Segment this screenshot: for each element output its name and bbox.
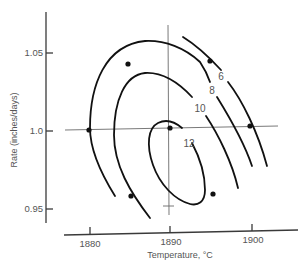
x-axis: 1880 1890 1900 Temperature, °C [64,224,298,260]
data-point [128,193,133,198]
x-tick-label: 1890 [160,236,181,247]
data-point [125,61,130,66]
data-point [247,123,252,128]
contour-label-12: 12 [183,138,195,149]
vertical-reference-line [168,25,169,215]
data-point [207,58,212,63]
y-tick-label: 0.95 [25,203,44,214]
contour-chart: 1.05 1.0 0.95 Rate (inches/days) 1880 18… [0,0,308,269]
reference-lines [65,25,278,215]
y-tick-label: 1.0 [30,125,43,136]
center-data-point [167,125,172,130]
x-axis-label: Temperature, °C [147,250,213,260]
contour-label-8: 8 [209,85,215,96]
y-axis-label: Rate (inches/days) [9,92,19,167]
data-point [210,191,215,196]
contour-label-10: 10 [194,103,206,114]
x-tick-label: 1880 [79,238,100,249]
y-tick-label: 1.05 [25,47,44,58]
contour-12 [149,121,205,204]
y-axis: 1.05 1.0 0.95 Rate (inches/days) [9,12,53,223]
x-tick-label: 1900 [242,234,263,245]
data-point [86,127,91,132]
contour-label-6: 6 [218,71,224,82]
contour-6 [183,37,267,166]
